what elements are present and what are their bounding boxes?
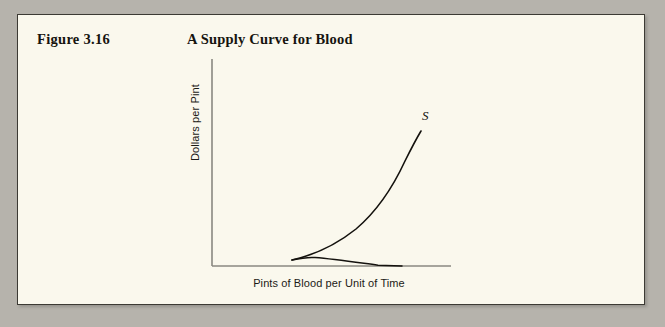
figure-root: Figure 3.16 A Supply Curve for Blood Dol… <box>0 0 665 327</box>
x-axis-label: Pints of Blood per Unit of Time <box>253 277 405 289</box>
supply-curve-chart <box>18 15 646 306</box>
figure-panel: Figure 3.16 A Supply Curve for Blood Dol… <box>17 14 645 305</box>
supply-curve <box>292 131 421 260</box>
supply-curve-label: S <box>422 108 429 124</box>
supply-curve-lower-hook <box>292 257 402 266</box>
plot-area: Dollars per Pint Pints of Blood per Unit… <box>18 15 646 306</box>
y-axis-label: Dollars per Pint <box>189 84 201 161</box>
